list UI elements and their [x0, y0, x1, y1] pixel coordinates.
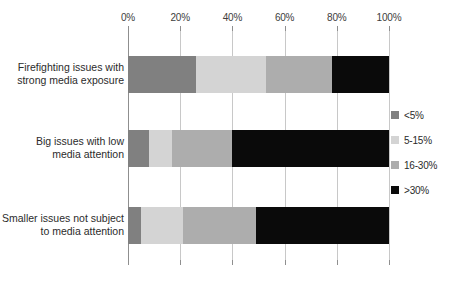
- category-label: Big issues with lowmedia attention: [2, 135, 124, 162]
- bar-segment: [196, 56, 266, 93]
- bar-segment: [172, 130, 232, 167]
- category-label: Firefighting issues withstrong media exp…: [2, 61, 124, 88]
- category-label-line: media attention: [2, 148, 124, 162]
- legend-label: 5-15%: [404, 135, 432, 146]
- legend-item[interactable]: 16-30%: [391, 159, 437, 171]
- x-axis-tick-label: 60%: [275, 12, 294, 23]
- x-axis-tick-mark: [232, 26, 233, 31]
- bar-segment: [128, 207, 141, 244]
- category-label-line: Smaller issues not subject: [2, 212, 124, 226]
- legend-swatch-icon: [391, 161, 399, 169]
- legend-item[interactable]: 5-15%: [391, 134, 432, 146]
- x-axis-tick-mark-bottom: [337, 260, 338, 265]
- x-axis-tick-mark-bottom: [285, 260, 286, 265]
- x-axis-tick-label: 100%: [377, 12, 402, 23]
- plot-area: [128, 30, 389, 260]
- bar-segment: [128, 130, 149, 167]
- x-axis-tick-mark-bottom: [389, 260, 390, 265]
- category-label-line: Big issues with low: [2, 135, 124, 149]
- x-axis-tick-label: 20%: [170, 12, 189, 23]
- legend-item[interactable]: >30%: [391, 184, 429, 196]
- legend-label: 16-30%: [404, 160, 437, 171]
- legend-item[interactable]: <5%: [391, 109, 424, 121]
- legend-label: >30%: [404, 185, 429, 196]
- category-label-line: to media attention: [2, 225, 124, 239]
- x-axis-tick-mark: [285, 26, 286, 31]
- bar-segment: [128, 56, 196, 93]
- x-axis-tick-mark: [128, 26, 129, 31]
- legend-swatch-icon: [391, 186, 399, 194]
- category-label-line: strong media exposure: [2, 74, 124, 88]
- x-axis-tick-mark: [337, 26, 338, 31]
- bar-segment: [266, 56, 331, 93]
- x-axis-tick-mark-bottom: [232, 260, 233, 265]
- x-axis-tick-mark-bottom: [180, 260, 181, 265]
- legend-swatch-icon: [391, 111, 399, 119]
- bar-segment: [332, 56, 389, 93]
- stacked-bar-chart: 0%20%40%60%80%100% Firefighting issues w…: [0, 0, 458, 285]
- bar-segment: [149, 130, 172, 167]
- legend-label: <5%: [404, 110, 424, 121]
- bar-segment: [256, 207, 389, 244]
- x-axis-tick-label: 80%: [327, 12, 346, 23]
- category-label-line: Firefighting issues with: [2, 61, 124, 75]
- x-axis-tick-label: 40%: [223, 12, 242, 23]
- bar-segment: [141, 207, 183, 244]
- bar-segment: [232, 130, 389, 167]
- gridline: [389, 30, 390, 260]
- bar-segment: [183, 207, 256, 244]
- x-axis-tick-mark-bottom: [128, 260, 129, 265]
- x-axis-tick-label: 0%: [121, 12, 135, 23]
- x-axis-tick-mark: [180, 26, 181, 31]
- x-axis-tick-mark: [389, 26, 390, 31]
- category-label: Smaller issues not subjectto media atten…: [2, 212, 124, 239]
- legend-swatch-icon: [391, 136, 399, 144]
